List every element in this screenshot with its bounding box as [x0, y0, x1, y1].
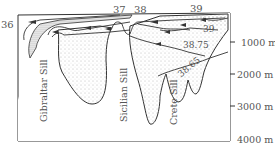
isoline-label-36: 36 [1, 19, 14, 30]
depth-tick-1000: 1000 m [241, 37, 275, 48]
cross-section-diagram: 36 37 38 39 39 38.75 38.65 Gibraltar Sil… [0, 0, 275, 147]
depth-axis [230, 42, 235, 106]
contour-label-3875: 38.75 [183, 40, 209, 50]
isoline-label-38: 38 [134, 4, 147, 15]
contour-label-39: 39 [203, 24, 215, 34]
depth-tick-4000: 4000 m [237, 134, 273, 145]
gibraltar-sill-label: Gibraltar Sill [38, 59, 49, 122]
crete-sill-label: Crete Sill [168, 79, 179, 125]
depth-tick-3000: 3000 m [237, 101, 273, 112]
depth-tick-2000: 2000 m [237, 69, 273, 80]
isoline-label-37: 37 [113, 4, 126, 15]
isoline-label-39: 39 [190, 3, 203, 14]
sicilian-sill-label: Sicilian Sill [118, 68, 129, 122]
